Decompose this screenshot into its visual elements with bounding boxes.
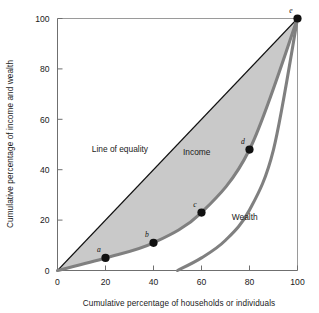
x-tick-label: 60	[197, 277, 207, 287]
annotation-wealth: Wealth	[232, 212, 258, 222]
y-tick-label: 0	[45, 266, 50, 276]
x-tick-label: 20	[101, 277, 111, 287]
data-point-label: b	[145, 230, 149, 239]
y-axis-ticks	[58, 19, 63, 271]
data-point-marker	[245, 145, 253, 153]
data-point-marker	[101, 254, 109, 262]
annotation-income: Income	[183, 147, 211, 157]
y-tick-label: 40	[40, 165, 50, 175]
lorenz-curve-chart: 020406080100 020406080100 abcde Line of …	[0, 0, 319, 313]
y-tick-label: 80	[40, 64, 50, 74]
y-tick-label: 100	[35, 14, 50, 24]
data-point-e: e	[289, 6, 301, 23]
x-tick-label: 100	[290, 277, 305, 287]
data-point-label: d	[241, 137, 245, 146]
annotation-line-of-equality: Line of equality	[92, 144, 149, 154]
x-axis-title: Cumulative percentage of households or i…	[83, 299, 276, 308]
data-point-label: e	[289, 6, 293, 15]
y-tick-label: 20	[40, 215, 50, 225]
data-point-marker	[149, 239, 157, 247]
data-point-marker	[293, 14, 301, 22]
x-tick-label: 0	[55, 277, 60, 287]
data-point-marker	[197, 208, 205, 216]
x-tick-label: 80	[245, 277, 255, 287]
x-axis-tick-labels: 020406080100	[55, 277, 305, 287]
y-axis-tick-labels: 020406080100	[35, 14, 50, 276]
x-tick-label: 40	[149, 277, 159, 287]
y-tick-label: 60	[40, 115, 50, 125]
data-point-label: a	[97, 245, 101, 254]
chart-canvas: 020406080100 020406080100 abcde Line of …	[0, 0, 319, 313]
y-axis-title: Cumulative percentage of income and weal…	[6, 60, 15, 228]
